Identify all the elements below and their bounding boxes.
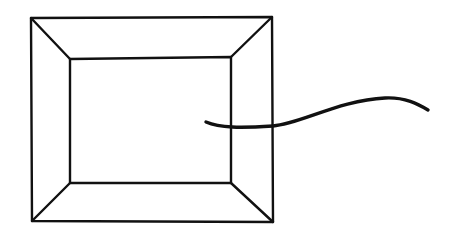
outer-frame — [31, 17, 273, 222]
inner-panel — [70, 57, 231, 183]
bevel-bottom-left — [32, 183, 70, 221]
bevel-top-left — [31, 18, 70, 59]
bevel-top-right — [231, 17, 272, 57]
bevel-bottom-right — [231, 183, 273, 222]
diagram-canvas — [0, 0, 459, 240]
framed-box-with-wire-drawing — [0, 0, 459, 240]
wavy-wire — [206, 98, 428, 127]
